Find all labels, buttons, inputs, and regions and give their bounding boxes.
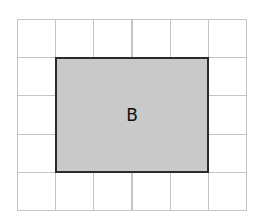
grid-cell — [55, 172, 94, 211]
shaded-rectangle-b: B — [55, 57, 209, 173]
grid-cell — [17, 134, 56, 173]
shape-label: B — [126, 105, 138, 125]
grid-cell — [208, 19, 247, 58]
grid-cell — [132, 19, 171, 58]
grid-cell — [208, 172, 247, 211]
grid: B — [17, 19, 246, 210]
grid-cell — [17, 57, 56, 96]
grid-cell — [208, 95, 247, 134]
grid-cell — [208, 57, 247, 96]
grid-cell — [93, 172, 132, 211]
grid-cell — [132, 172, 171, 211]
grid-cell — [170, 19, 209, 58]
grid-cell — [17, 172, 56, 211]
grid-cell — [17, 19, 56, 58]
grid-cell — [170, 172, 209, 211]
grid-cell — [208, 134, 247, 173]
grid-cell — [93, 19, 132, 58]
grid-cell — [17, 95, 56, 134]
grid-cell — [55, 19, 94, 58]
